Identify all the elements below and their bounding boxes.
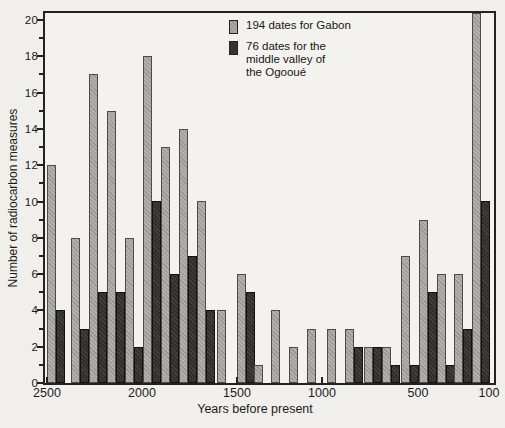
legend-entry-ogooue: 76 dates for the middle valley of the Og… <box>229 40 351 79</box>
y-tick-mark <box>39 219 45 221</box>
legend-entry-gabon: 194 dates for Gabon <box>229 19 351 34</box>
x-tick-label: 1500 <box>223 387 251 400</box>
x-tick-mark <box>417 377 419 383</box>
bar-gabon <box>237 274 246 383</box>
bar-gabon <box>382 347 391 383</box>
bar-gabon <box>107 111 116 383</box>
y-tick-mark <box>39 37 45 39</box>
bar-gabon <box>217 310 226 383</box>
y-tick-mark <box>39 328 45 330</box>
y-tick-mark <box>37 201 45 203</box>
bar-gabon <box>437 274 446 383</box>
y-tick-mark <box>37 55 45 57</box>
gabon-swatch-icon <box>229 20 238 34</box>
x-tick-mark <box>46 377 48 383</box>
y-tick-mark <box>39 255 45 257</box>
y-tick-mark <box>39 291 45 293</box>
legend-label-gabon: 194 dates for Gabon <box>246 19 351 32</box>
y-tick-mark <box>37 273 45 275</box>
y-tick-label: 0 <box>0 376 38 390</box>
bar-gabon <box>454 274 463 383</box>
bar-ogooue <box>354 347 363 383</box>
bar-ogooue <box>170 274 179 383</box>
y-tick-mark <box>37 19 45 21</box>
y-tick-label: 2 <box>0 340 38 354</box>
bar-gabon <box>143 56 152 383</box>
x-tick-mark <box>321 377 323 383</box>
bar-gabon <box>125 238 134 383</box>
x-axis-title: Years before present <box>75 402 435 416</box>
y-tick-mark <box>37 128 45 130</box>
bar-ogooue <box>373 347 382 383</box>
y-tick-label: 6 <box>0 267 38 281</box>
bar-gabon <box>179 129 188 383</box>
y-tick-mark <box>39 364 45 366</box>
y-tick-mark <box>39 110 45 112</box>
bar-gabon <box>345 329 354 383</box>
bar-ogooue <box>206 310 215 383</box>
bar-gabon <box>419 220 428 383</box>
bar-ogooue <box>116 292 125 383</box>
y-tick-label: 8 <box>0 231 38 245</box>
bar-gabon <box>89 74 98 383</box>
bar-gabon <box>327 329 336 383</box>
bar-gabon <box>289 347 298 383</box>
x-tick-label: 2000 <box>128 387 156 400</box>
y-tick-mark <box>39 73 45 75</box>
bar-gabon <box>364 347 373 383</box>
bar-ogooue <box>56 310 65 383</box>
bar-ogooue <box>481 201 490 383</box>
y-tick-mark <box>37 237 45 239</box>
bar-gabon <box>161 147 170 383</box>
bar-gabon <box>254 365 263 383</box>
bar-ogooue <box>80 329 89 383</box>
bar-ogooue <box>391 365 400 383</box>
x-tick-mark <box>488 377 490 383</box>
ogooue-swatch-icon <box>229 41 238 55</box>
bar-gabon <box>271 310 280 383</box>
bar-gabon <box>197 201 206 383</box>
legend-label-ogooue: 76 dates for the middle valley of the Og… <box>246 40 326 79</box>
y-tick-label: 4 <box>0 303 38 317</box>
y-tick-label: 10 <box>0 195 38 209</box>
legend: 194 dates for Gabon 76 dates for the mid… <box>229 19 351 85</box>
radiocarbon-bar-chart: Number of radiocarbon measures 194 dates… <box>0 0 505 428</box>
bar-gabon <box>307 329 316 383</box>
bar-gabon <box>71 238 80 383</box>
y-tick-label: 14 <box>0 122 38 136</box>
y-tick-label: 18 <box>0 49 38 63</box>
x-tick-label: 100 <box>479 387 500 400</box>
bar-gabon <box>47 165 56 383</box>
y-tick-mark <box>37 164 45 166</box>
x-tick-label: 1000 <box>308 387 336 400</box>
bar-ogooue <box>463 329 472 383</box>
y-tick-label: 20 <box>0 13 38 27</box>
plot-area: 194 dates for Gabon 76 dates for the mid… <box>43 11 496 385</box>
bar-gabon <box>472 13 481 383</box>
bar-ogooue <box>152 201 161 383</box>
y-tick-mark <box>37 309 45 311</box>
y-tick-label: 12 <box>0 158 38 172</box>
x-tick-mark <box>236 377 238 383</box>
y-tick-mark <box>37 382 45 384</box>
y-tick-mark <box>37 92 45 94</box>
bar-ogooue <box>98 292 107 383</box>
y-tick-mark <box>39 146 45 148</box>
x-tick-mark <box>141 377 143 383</box>
bar-gabon <box>401 256 410 383</box>
bar-ogooue <box>188 256 197 383</box>
y-tick-mark <box>37 346 45 348</box>
x-tick-label: 500 <box>408 387 429 400</box>
y-tick-mark <box>39 182 45 184</box>
bar-ogooue <box>428 292 437 383</box>
y-tick-label: 16 <box>0 86 38 100</box>
